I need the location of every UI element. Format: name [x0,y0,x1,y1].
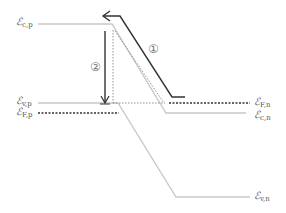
label-ec-p: ℰc,p [16,16,33,29]
step1-marker: ① [148,42,159,56]
label-ev-n: ℰv,n [254,190,270,203]
valence-band-line [38,103,250,197]
arrow-step1-path [104,16,185,97]
band-diagram-canvas [0,0,286,213]
conduction-band-line [38,24,246,113]
label-ef-p: ℰF,p [16,106,32,119]
label-ef-n: ℰF,n [254,96,271,109]
label-ec-n: ℰc,n [254,109,271,122]
step2-marker: ② [90,60,101,74]
